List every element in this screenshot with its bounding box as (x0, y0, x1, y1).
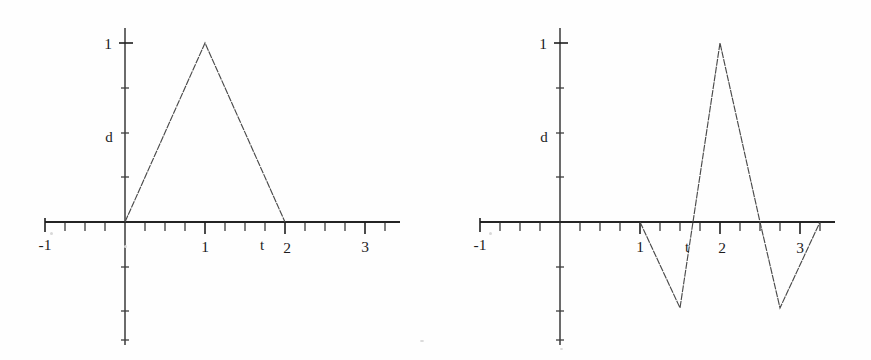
left-xtick-label-2: 2 (283, 239, 291, 256)
left-xtick-label-minus1: -1 (39, 236, 52, 253)
right-xtick-label-minus1: -1 (474, 236, 487, 253)
right-xtick-label-2: 2 (718, 239, 726, 256)
left-data-curve (125, 43, 285, 222)
right-y-minor-ticks (554, 43, 568, 340)
right-x-minor-ticks (480, 218, 820, 234)
left-ytick-label-1: 1 (104, 35, 112, 52)
chart-panel-right: 1 d -1 1 2 3 t (435, 0, 871, 360)
left-x-axis-label: t (260, 237, 265, 253)
left-plot-svg: 1 d -1 1 2 3 t (0, 0, 435, 360)
right-xtick-label-1: 1 (636, 238, 644, 255)
left-xtick-label-3: 3 (361, 238, 369, 255)
right-xtick-label-3: 3 (796, 239, 804, 256)
right-y-axis-label: d (540, 129, 548, 145)
right-plot-svg: 1 d -1 1 2 3 t (435, 0, 871, 360)
figure-canvas: 1 d -1 1 2 3 t (0, 0, 871, 360)
left-y-minor-ticks (119, 43, 133, 340)
right-data-curve (640, 43, 820, 308)
chart-panel-left: 1 d -1 1 2 3 t (0, 0, 435, 360)
left-x-minor-ticks (45, 218, 385, 234)
left-y-axis-label: d (105, 129, 113, 145)
right-ytick-label-1: 1 (539, 35, 547, 52)
left-xtick-label-1: 1 (201, 238, 209, 255)
